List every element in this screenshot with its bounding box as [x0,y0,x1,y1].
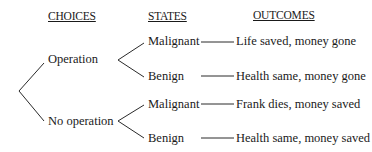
header-choices: CHOICES [48,10,96,23]
outcome-no-operation-benign: Health same, money saved [236,131,370,145]
branch-operation-to-benign [118,60,144,77]
state-operation-benign: Benign [148,69,184,83]
branch-operation-to-malignant [118,43,144,60]
branch-root-to-no-operation [19,91,44,121]
outcome-no-operation-malignant: Frank dies, money saved [236,97,360,111]
state-operation-malignant: Malignant [148,34,199,48]
branch-no-operation-to-malignant [118,105,144,121]
outcome-operation-malignant: Life saved, money gone [236,34,356,48]
state-no-operation-benign: Benign [148,131,184,145]
header-outcomes: OUTCOMES [253,9,315,22]
branch-root-to-operation [19,63,44,91]
choice-operation: Operation [48,52,98,66]
choice-no-operation: No operation [48,114,114,128]
branch-no-operation-to-benign [118,121,144,138]
state-no-operation-malignant: Malignant [148,97,199,111]
header-states: STATES [148,10,187,23]
outcome-operation-benign: Health same, money gone [236,69,366,83]
